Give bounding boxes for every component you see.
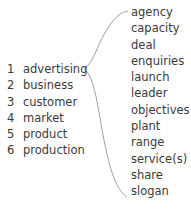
list-item: 6production (7, 142, 87, 158)
list-item: service(s) (131, 151, 190, 167)
list-item: launch (131, 69, 190, 85)
list-item: range (131, 134, 190, 150)
list-item: share (131, 167, 190, 183)
item-word: advertising (23, 62, 87, 76)
item-word: customer (23, 95, 77, 109)
item-number: 1 (7, 61, 23, 77)
item-word: business (23, 78, 73, 92)
item-word: production (23, 143, 85, 157)
item-number: 2 (7, 77, 23, 93)
list-item: agency (131, 4, 190, 20)
list-item: 2business (7, 77, 87, 93)
list-item: capacity (131, 20, 190, 36)
item-number: 5 (7, 126, 23, 142)
item-number: 4 (7, 110, 23, 126)
list-item: 5product (7, 126, 87, 142)
list-item: plant (131, 118, 190, 134)
list-item: deal (131, 37, 190, 53)
item-word: market (23, 111, 64, 125)
item-number: 6 (7, 142, 23, 158)
word-list-left: 1advertising 2business 3customer 4market… (7, 61, 87, 159)
list-item: 4market (7, 110, 87, 126)
list-item: slogan (131, 183, 190, 199)
word-list-right: agency capacity deal enquiries launch le… (131, 4, 190, 200)
list-item: 3customer (7, 94, 87, 110)
list-item: enquiries (131, 53, 190, 69)
item-number: 3 (7, 94, 23, 110)
list-item: leader (131, 85, 190, 101)
list-item: objectives (131, 102, 190, 118)
item-word: product (23, 127, 67, 141)
list-item: 1advertising (7, 61, 87, 77)
